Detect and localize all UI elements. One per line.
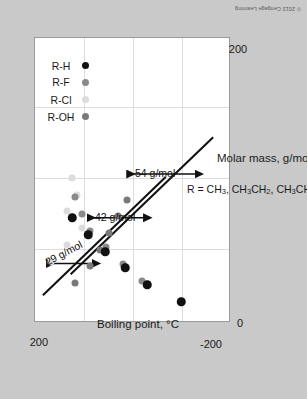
data-point-r-h [83,230,92,239]
legend-label-r-f: R-F [52,76,70,88]
figure-root: © 2013 Cengage Learning [0,0,307,399]
data-point-r-h [142,280,151,289]
legend-swatch-r-oh [82,113,89,120]
gap-label-54: 54 g/mol [135,167,175,179]
data-point-r-h [120,263,129,272]
data-point-r-h [100,247,109,256]
data-point-r-f [71,193,78,200]
gridline-horizontal [133,38,134,321]
chart-stage: 29 g/mol 42 g/mol 54 g/mol R = CH3, CH3C… [20,22,288,378]
legend-swatch-r-f [82,79,89,86]
lower-trend-line [70,137,213,274]
legend: R-OH R-Cl R-F R-H [55,57,89,125]
y-axis-title: Boiling point, °C [78,318,198,330]
copyright-notice: © 2013 Cengage Learning [235,6,301,12]
gridline-vertical [35,178,229,179]
data-point-r-oh [105,229,112,236]
x-tick-200: 200 [225,43,251,55]
legend-item-r-cl[interactable]: R-Cl [55,91,89,108]
legend-item-r-h[interactable]: R-H [55,57,89,74]
data-point-r-oh [86,262,93,269]
legend-label-r-oh: R-OH [47,110,74,122]
gap-label-42: 42 g/mol [95,211,135,223]
gap-label-29: 29 g/mol [43,238,84,268]
gridline-horizontal [182,38,183,321]
data-point-r-cl [78,224,85,231]
legend-item-r-f[interactable]: R-F [55,74,89,91]
x-tick-0: 0 [229,317,251,329]
data-point-r-cl [68,174,75,181]
r-definition-note: R = CH3, CH3CH2, CH3CH2CH2, etc. [187,183,308,196]
y-tick-neg200: -200 [190,338,222,350]
legend-label-r-cl: R-Cl [50,93,71,105]
data-point-r-h [67,213,76,222]
x-axis-title: Molar mass, g/mol [194,152,308,164]
data-point-r-h [176,297,185,306]
legend-item-r-oh[interactable]: R-OH [55,108,89,125]
plot-area: 29 g/mol 42 g/mol 54 g/mol R = CH3, CH3C… [34,37,230,322]
legend-swatch-r-h [82,62,89,69]
y-tick-200: 200 [20,336,48,348]
data-point-r-oh [71,279,78,286]
upper-trend-line [42,177,165,295]
legend-label-r-h: R-H [51,59,70,71]
legend-swatch-r-cl [82,96,89,103]
data-point-r-f [78,210,85,217]
data-point-r-oh [123,196,130,203]
